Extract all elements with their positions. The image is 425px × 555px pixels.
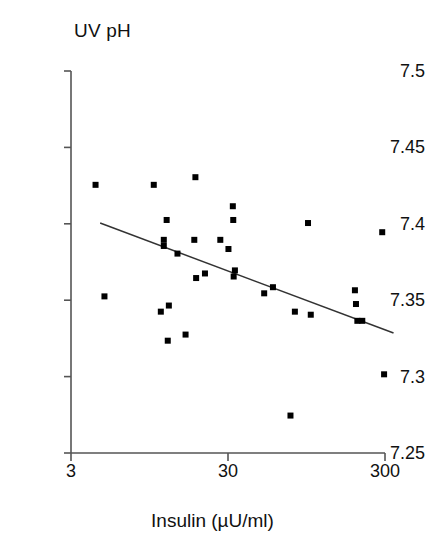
y-tick-label: 7.3 xyxy=(365,366,425,387)
data-point xyxy=(232,267,238,273)
data-point xyxy=(308,312,314,318)
fit-line xyxy=(100,223,393,333)
data-point xyxy=(101,293,107,299)
x-tick-label: 30 xyxy=(218,461,238,482)
data-point xyxy=(174,251,180,257)
regression-line xyxy=(100,223,393,333)
data-point xyxy=(151,182,157,188)
scatter-plot-svg xyxy=(0,0,425,555)
axis-ticks xyxy=(64,71,385,461)
y-tick-label: 7.4 xyxy=(365,213,425,234)
chart-figure: UV pH 7.257.37.357.47.457.5 330300 Insul… xyxy=(0,0,425,555)
data-point xyxy=(231,274,237,280)
data-point xyxy=(230,217,236,223)
data-point xyxy=(183,332,189,338)
data-point xyxy=(270,284,276,290)
data-point xyxy=(353,301,359,307)
data-point xyxy=(225,246,231,252)
data-point xyxy=(161,237,167,243)
x-tick-label: 3 xyxy=(66,461,76,482)
data-point xyxy=(164,217,170,223)
axis-lines xyxy=(71,71,385,453)
data-point xyxy=(305,220,311,226)
data-point xyxy=(158,309,164,315)
data-point xyxy=(166,303,172,309)
data-point xyxy=(230,203,236,209)
data-point xyxy=(165,338,171,344)
data-point xyxy=(161,243,167,249)
data-point xyxy=(352,287,358,293)
data-point xyxy=(93,182,99,188)
data-point xyxy=(217,237,223,243)
y-tick-label: 7.5 xyxy=(365,61,425,82)
x-axis-title-text: Insulin (µU/ml) xyxy=(151,510,274,531)
data-point xyxy=(287,413,293,419)
x-tick-label: 300 xyxy=(370,461,400,482)
x-axis-title: Insulin (µU/ml) xyxy=(0,510,425,532)
data-point xyxy=(292,309,298,315)
data-point xyxy=(192,174,198,180)
data-points xyxy=(93,174,388,418)
y-tick-label: 7.45 xyxy=(365,137,425,158)
data-point xyxy=(359,318,365,324)
data-point xyxy=(193,275,199,281)
data-point xyxy=(261,290,267,296)
data-point xyxy=(202,270,208,276)
data-point xyxy=(191,237,197,243)
y-tick-label: 7.35 xyxy=(365,290,425,311)
